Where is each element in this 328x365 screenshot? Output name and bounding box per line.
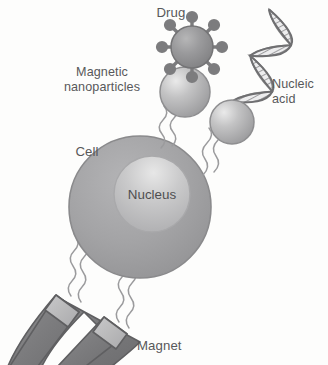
nanoparticle-cell-diagram: Nucleus: [0, 0, 328, 365]
drug-label: Drug: [157, 5, 186, 20]
nucleic-acid-label-line2: acid: [272, 92, 296, 106]
magnetic-nanoparticles-label-line2: nanoparticles: [64, 80, 140, 94]
magnet-label: Magnet: [137, 338, 182, 353]
nucleic-acid-label-line1: Nucleic: [272, 77, 314, 91]
diagram-canvas: Nucleus: [0, 0, 328, 365]
nucleus-label: Nucleus: [128, 187, 177, 202]
drug-core: [171, 26, 213, 68]
cell-label: Cell: [75, 144, 98, 159]
magnetic-nanoparticles-label-line1: Magnetic: [76, 65, 128, 79]
drug-particle: [158, 13, 227, 82]
magnetic-nanoparticle-lower: [210, 100, 254, 144]
